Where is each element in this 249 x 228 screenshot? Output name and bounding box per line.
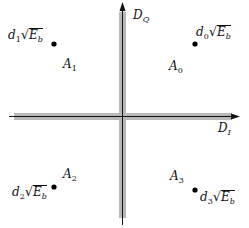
point-label-d1: d1√Eb	[8, 28, 43, 46]
point-radical: E	[217, 25, 226, 39]
region-label-main: A	[170, 169, 179, 183]
sqrt-icon: √	[25, 184, 33, 199]
region-label-a2: A2	[63, 168, 77, 183]
vertical-axis-arrow-icon	[120, 2, 126, 11]
point-d2	[51, 184, 56, 189]
point-radical-sub: b	[226, 32, 231, 41]
region-label-sub: 3	[179, 176, 184, 185]
axis-label-sub: Q	[143, 15, 150, 24]
vertical-axis-label: DQ	[133, 9, 149, 24]
sqrt-icon: √	[21, 27, 29, 42]
sqrt-icon: √	[213, 189, 221, 204]
point-coef: d	[196, 25, 204, 39]
horizontal-axis-arrow-icon	[231, 114, 240, 120]
point-d1	[51, 41, 56, 46]
axis-label-main: D	[133, 8, 143, 22]
point-coef: d	[12, 185, 20, 199]
point-radical: E	[29, 28, 38, 42]
horizontal-axis-label: DI	[218, 122, 231, 137]
point-radical: E	[221, 190, 230, 204]
point-radical-sub: b	[42, 192, 47, 201]
point-radical-sub: b	[38, 35, 43, 44]
constellation-diagram: DQ DI A1 A0 A2 A3 d1√Eb d0√Eb d2√Eb d3√E…	[0, 0, 249, 228]
point-coef: d	[200, 190, 208, 204]
region-label-a1: A1	[63, 58, 77, 73]
sqrt-icon: √	[209, 24, 217, 39]
point-coef: d	[8, 28, 16, 42]
region-label-main: A	[169, 59, 178, 73]
point-d3	[192, 187, 197, 192]
region-label-sub: 2	[72, 174, 77, 183]
region-label-a0: A0	[169, 60, 183, 75]
region-label-sub: 0	[178, 66, 183, 75]
region-label-main: A	[63, 167, 72, 181]
region-label-main: A	[63, 57, 72, 71]
point-label-d0: d0√Eb	[196, 25, 231, 43]
region-label-a3: A3	[170, 170, 184, 185]
point-label-d2: d2√Eb	[12, 185, 47, 203]
point-label-d3: d3√Eb	[200, 190, 235, 208]
axis-label-sub: I	[228, 128, 231, 137]
point-radical: E	[33, 185, 42, 199]
axis-label-main: D	[218, 121, 228, 135]
point-radical-sub: b	[230, 197, 235, 206]
region-label-sub: 1	[72, 64, 77, 73]
